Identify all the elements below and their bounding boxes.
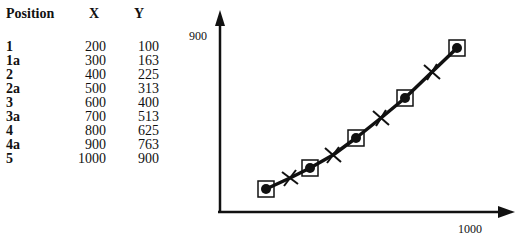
circle-square-marker-icon [258,181,274,197]
axes [215,10,515,218]
y-axis-arrow-icon [215,10,225,26]
plot-area [0,0,517,237]
x-axis-arrow-icon [498,206,515,218]
circle-square-marker-icon [302,160,318,176]
square-markers [258,40,465,197]
x-marker-icon [282,170,298,186]
